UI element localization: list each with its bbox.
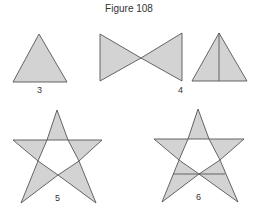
shape-label-4: 4 — [178, 85, 183, 95]
figure-canvas: 3 4 5 6 — [0, 0, 258, 213]
star-shape — [13, 110, 102, 203]
bowtie-shape — [100, 33, 182, 81]
star-with-line-shape — [154, 109, 244, 202]
triangle-shape — [13, 34, 67, 82]
triangle-with-median-shape — [192, 33, 247, 81]
shape-label-3: 3 — [37, 85, 42, 95]
shape-label-5: 5 — [55, 193, 60, 203]
shape-label-6: 6 — [196, 192, 201, 202]
